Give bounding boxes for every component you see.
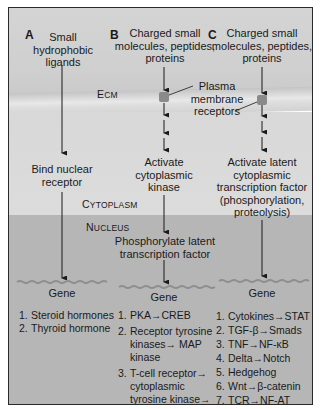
list-item: 3.TNF→NF-κB — [216, 337, 312, 351]
region-label-cytoplasm: CYTOPLASM — [82, 198, 138, 210]
panel-b-examples: 1.PKA→CREB 2.Receptor tyrosine kinases→ … — [118, 309, 213, 405]
list-item: 2.Receptor tyrosine kinases→ MAP kinase — [118, 325, 213, 364]
region-label-nucleus: NUCLEUS — [86, 221, 129, 233]
list-item: 7.TCR→NF-AT — [216, 393, 312, 405]
panel-a-input: Small hydrophobic ligands — [22, 31, 104, 69]
panel-b-input: Charged small molecules, peptides, prote… — [109, 27, 221, 65]
panel-b-gene: Gene — [144, 291, 184, 304]
diagram-frame: A B C Small hydrophobic ligands Charged … — [8, 7, 313, 405]
plasma-membrane-receptors-label: Plasma membrane receptors — [187, 80, 247, 118]
list-item: 1.Steroid hormones — [19, 309, 119, 322]
gene-c-dna — [219, 280, 309, 282]
panel-b-step-phosphorylate-tf: Phosphorylate latent transcription facto… — [109, 235, 221, 260]
panel-b-step-activate-kinase: Activate cytoplasmic kinase — [119, 156, 209, 194]
list-item: 1.Cytokines→STAT — [216, 309, 312, 323]
list-item: 4.Delta→Notch — [216, 351, 312, 365]
panel-a-examples: 1.Steroid hormones 2.Thyroid hormone — [19, 309, 119, 335]
panel-a-step-bind-nuclear-receptor: Bind nuclear receptor — [14, 163, 110, 188]
list-item: 2.Thyroid hormone — [19, 322, 119, 335]
panel-c-step-activate-latent-tf: Activate latent cytoplasmic transcriptio… — [206, 156, 313, 219]
panel-c-input: Charged small molecules, peptides, prote… — [206, 27, 313, 65]
list-item: 6.Wnt→β-catenin — [216, 379, 312, 393]
list-item: 2.TGF-β→Smads — [216, 323, 312, 337]
receptor-b — [159, 92, 169, 102]
panel-a-gene: Gene — [42, 287, 82, 300]
gene-b-dna — [119, 286, 215, 288]
region-label-ecm: ECM — [97, 88, 118, 100]
list-item: 3.T-cell receptor→ cytoplasmic tyrosine … — [118, 367, 213, 405]
gene-a-dna — [17, 281, 107, 283]
list-item: 1.PKA→CREB — [118, 309, 213, 322]
panel-c-gene: Gene — [242, 287, 282, 300]
panel-c-examples: 1.Cytokines→STAT 2.TGF-β→Smads 3.TNF→NF-… — [216, 309, 312, 405]
list-item: 5.Hedgehog — [216, 365, 312, 379]
receptor-c — [257, 95, 267, 105]
